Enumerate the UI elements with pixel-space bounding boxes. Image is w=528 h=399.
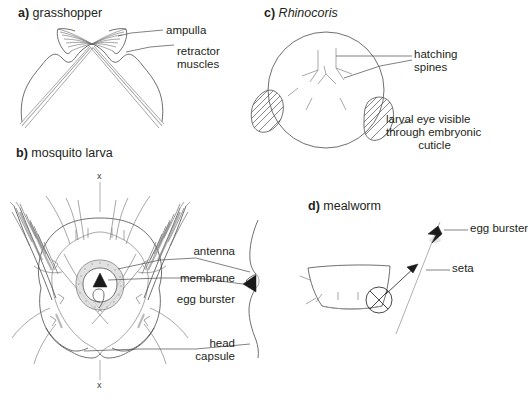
panel-a-label-ampulla: ampulla	[166, 24, 206, 37]
panel-b-label-capsule: capsule	[130, 350, 235, 363]
panel-a-label-retractor: retractor	[177, 45, 220, 58]
panel-b-axis-mark-top: x	[97, 172, 102, 181]
panel-c-label-larval-eye-1: larval eye visible	[386, 113, 470, 126]
panel-b-axis-mark-bottom: x	[97, 381, 102, 390]
panel-b-label-head: head	[130, 337, 235, 350]
panel-c-label-larval-eye-2: through embryonic	[386, 126, 481, 139]
panel-a-drawing	[0, 0, 250, 150]
panel-b-label-egg-burster: egg burster	[130, 293, 235, 306]
panel-b-name: mosquito larva	[31, 146, 112, 160]
panel-b-label-membrane: membrane	[130, 272, 235, 285]
panel-c-label-spines: spines	[414, 61, 447, 74]
panel-c-label-larval-eye-3: cuticle	[386, 139, 483, 152]
panel-a-label-muscles: muscles	[177, 58, 219, 71]
panel-c-letter: c)	[264, 6, 275, 20]
panel-b-letter: b)	[16, 146, 28, 160]
panel-b-label-antenna: antenna	[130, 245, 235, 258]
panel-d-drawing	[290, 210, 483, 345]
panel-c-name: Rhinocoris	[279, 6, 338, 20]
panel-c-label-hatching: hatching	[414, 48, 457, 61]
panel-d-label-seta: seta	[452, 262, 474, 275]
panel-c-title: c) Rhinocoris	[264, 6, 338, 20]
panel-d-label-egg-burster: egg burster	[470, 222, 528, 235]
magnify-arrow-head	[407, 264, 418, 273]
panel-b-title: b) mosquito larva	[16, 146, 113, 160]
